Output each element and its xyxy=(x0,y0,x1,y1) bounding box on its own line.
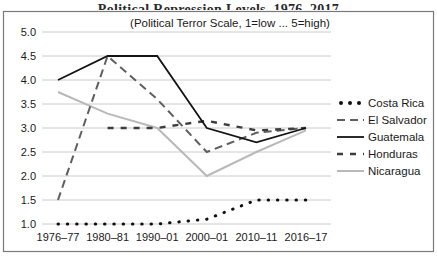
x-tick-label: 2000–01 xyxy=(185,231,228,243)
pts-line-chart: (Political Terror Scale, 1=low ... 5=hig… xyxy=(0,0,437,256)
y-tick-label: 2.0 xyxy=(21,170,36,182)
y-axis-labels: 5.04.54.03.53.02.52.01.51.0 xyxy=(21,26,36,230)
y-tick-label: 4.5 xyxy=(21,50,36,62)
cropped-page-title-text: Political Repression Levels, 1976–2017 xyxy=(98,0,339,10)
chart-figure: (Political Terror Scale, 1=low ... 5=hig… xyxy=(0,0,437,256)
x-tick-label: 1990–01 xyxy=(136,231,179,243)
chart-subtitle: (Political Terror Scale, 1=low ... 5=hig… xyxy=(130,17,330,29)
y-tick-label: 3.5 xyxy=(21,98,36,110)
legend-item-label: El Salvador xyxy=(368,114,427,126)
y-tick-label: 2.5 xyxy=(21,146,36,158)
cropped-page-title: Political Repression Levels, 1976–2017 xyxy=(0,0,437,10)
y-tick-label: 1.0 xyxy=(21,218,36,230)
x-tick-label: 1980–81 xyxy=(86,231,129,243)
legend-swatch-dot xyxy=(357,101,361,105)
y-tick-label: 5.0 xyxy=(21,26,36,38)
y-tick-label: 4.0 xyxy=(21,74,36,86)
legend-swatch-dot xyxy=(348,101,352,105)
y-tick-label: 1.5 xyxy=(21,194,36,206)
x-tick-label: 2016–17 xyxy=(285,231,328,243)
legend-swatch-dot xyxy=(339,101,343,105)
x-tick-label: 1976–77 xyxy=(37,231,80,243)
y-tick-label: 3.0 xyxy=(21,122,36,134)
legend-item-label: Guatemala xyxy=(368,131,425,143)
x-tick-label: 2010–11 xyxy=(235,231,277,243)
legend-item-label: Costa Rica xyxy=(368,97,425,109)
legend-item-label: Nicaragua xyxy=(368,165,421,177)
legend-item-label: Honduras xyxy=(368,148,418,160)
